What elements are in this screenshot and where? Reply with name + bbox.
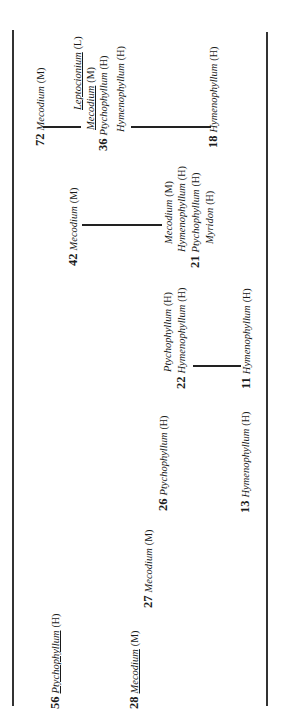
node-26: 26Ptychophyllum(H) [157,416,170,511]
connector-22-11 [193,365,241,367]
node-21-ptychophyllum: 21Ptychophyllum(H) [189,173,202,268]
left-border-line [12,30,14,706]
node-36-mecodium: Mecodium(M) [85,67,97,130]
node-22-ptychophyllum: Ptychophyllum(H) [162,292,174,372]
node-72: 72Mecodium(M) [34,68,47,146]
node-36-ptychophyllum: 36Ptychophyllum(H) [97,56,110,151]
node-42: 42Mecodium(M) [67,188,80,266]
connector-72-36 [43,126,81,128]
right-border-line [266,32,268,706]
node-21-hymenophyllum: Hymenophyllum(H) [176,166,188,252]
node-27: 27Mecodium(M) [142,530,155,608]
node-21-mecodium: Mecodium(M) [163,181,175,244]
node-28: 28Mecodium(M) [128,631,141,709]
node-22-hymenophyllum: 22Hymenophyllum(H) [175,288,188,389]
node-21-myridon: Myridon(H) [204,191,216,244]
connector-42-21 [82,224,162,226]
node-36-hymenophyllum: Hymenophyllum(H) [115,46,127,132]
node-11: 11Hymenophyllum(H) [240,288,253,389]
node-56: 56Ptychophyllum(H) [49,614,62,709]
node-36-leptocionium: Leptocionium(L) [72,36,84,110]
node-18: 18Hymenophyllum(H) [207,47,220,148]
node-13: 13Hymenophyllum(H) [239,412,252,513]
connector-36-18 [131,126,211,128]
